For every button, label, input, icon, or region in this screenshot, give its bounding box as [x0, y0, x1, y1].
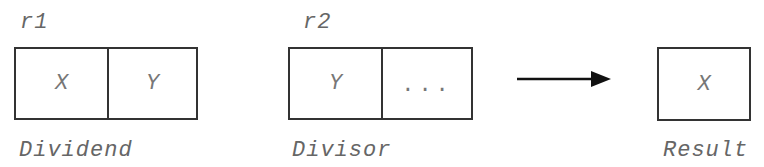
- register-r2-box: Y ...: [288, 47, 473, 120]
- register-r1-box: X Y: [14, 47, 198, 120]
- register-r2-cell-ellipsis: ...: [383, 49, 471, 118]
- register-r1-cell-y: Y: [109, 49, 196, 118]
- register-r2-label: r2: [303, 10, 331, 35]
- dividend-caption: Dividend: [19, 138, 133, 163]
- result-caption: Result: [663, 138, 748, 163]
- result-cell-x: X: [659, 49, 749, 119]
- register-r2-cell-y: Y: [290, 49, 381, 118]
- result-box: X: [657, 47, 751, 121]
- arrow-right-icon: [515, 68, 615, 90]
- register-r1-label: r1: [20, 10, 48, 35]
- divisor-caption: Divisor: [292, 138, 391, 163]
- register-r1-cell-x: X: [16, 49, 107, 118]
